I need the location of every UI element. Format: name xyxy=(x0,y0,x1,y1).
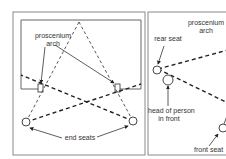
stage-outline xyxy=(21,20,141,89)
leader-seat-left xyxy=(30,128,62,138)
end-seat-left xyxy=(22,118,30,126)
leader-arch-left xyxy=(41,47,45,83)
sightline-right-cross xyxy=(21,75,133,121)
label-head-line2: in front xyxy=(148,115,190,123)
label-arch-line2: arch xyxy=(28,40,78,48)
front-seat-sightline xyxy=(224,113,226,124)
label-proscenium-arch-right: proscenium arch xyxy=(182,19,226,35)
sightline-right-apex xyxy=(79,22,133,121)
leader-arch-right xyxy=(55,45,114,83)
head-of-person xyxy=(163,75,173,85)
label-arch-line1: proscenium xyxy=(28,32,78,40)
leader-seat-right xyxy=(97,126,128,137)
front-seat xyxy=(219,124,226,132)
leader-rear-seat xyxy=(158,46,164,64)
leader-front-seat xyxy=(209,134,218,146)
rear-seat xyxy=(153,66,161,74)
label-front-seat: front seat xyxy=(194,146,226,154)
label-rear-seat: rear seat xyxy=(151,35,185,43)
label-end-seats: end seats xyxy=(62,134,98,142)
end-seat-right xyxy=(129,117,137,125)
label-proscenium-arch-left: proscenium arch xyxy=(28,32,78,48)
sightline-rear-upper xyxy=(158,50,226,69)
label-head-line1: head of person xyxy=(148,107,190,115)
label-arch-line2: arch xyxy=(182,27,226,35)
label-arch-line1: proscenium xyxy=(182,19,226,27)
label-head-of-person: head of person in front xyxy=(148,107,190,123)
